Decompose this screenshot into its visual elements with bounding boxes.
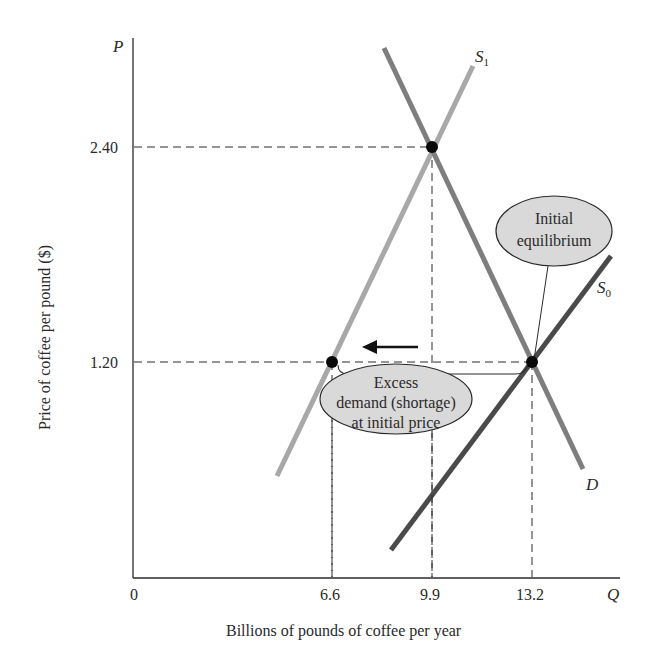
y-axis-letter: P: [112, 37, 123, 56]
y-axis-title: Price of coffee per pound ($): [36, 245, 54, 430]
axes: P Q: [112, 37, 620, 604]
supply-demand-chart: P Q 2.40 1.20 0 6.6 9.9 13.2 Price of co…: [0, 0, 664, 671]
x-tick-0: 0: [130, 586, 138, 603]
x-tick-6-6: 6.6: [320, 586, 340, 603]
s0-label: S0: [597, 278, 612, 299]
left-arrow-icon: [362, 340, 418, 354]
x-tick-9-9: 9.9: [420, 586, 440, 603]
point-new-equilibrium: [426, 141, 438, 153]
tick-labels: 2.40 1.20 0 6.6 9.9 13.2: [90, 139, 544, 603]
point-initial-equilibrium: [526, 356, 538, 368]
excess-demand-callout: Excess demand (shortage) at initial pric…: [320, 364, 472, 434]
point-qs-at-initial-price: [326, 356, 338, 368]
x-tick-13-2: 13.2: [516, 586, 544, 603]
callout-text-line1: Initial: [535, 210, 574, 227]
y-tick-2-40: 2.40: [90, 139, 118, 156]
s1-label: S1: [475, 47, 489, 68]
excess-text-line3: at initial price: [352, 414, 441, 432]
x-axis-title: Billions of pounds of coffee per year: [226, 622, 462, 640]
x-axis-letter: Q: [607, 585, 619, 604]
curves: [277, 48, 611, 550]
callout-bubble: [496, 196, 612, 266]
y-tick-1-20: 1.20: [90, 354, 118, 371]
d-label: D: [585, 475, 599, 494]
excess-text-line2: demand (shortage): [336, 394, 456, 412]
callout-text-line2: equilibrium: [517, 232, 592, 250]
excess-text-line1: Excess: [374, 374, 418, 391]
